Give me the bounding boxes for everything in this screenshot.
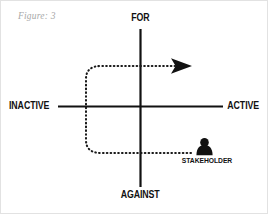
person-icon	[196, 138, 212, 155]
axis-label-top-text: FOR	[131, 12, 149, 23]
axis-label-right: ACTIVE	[227, 100, 259, 111]
axis-label-bottom: AGAINST	[1, 189, 268, 200]
figure-container: Figure: 3 FOR AGAINST INACTIVE ACTIVE ST…	[0, 0, 268, 214]
axis-label-bottom-text: AGAINST	[121, 189, 160, 200]
stakeholder-label: STAKEHOLDER	[173, 156, 241, 165]
axis-label-top: FOR	[1, 12, 268, 23]
axis-label-left: INACTIVE	[9, 100, 49, 111]
stakeholder-label-text: STAKEHOLDER	[182, 156, 232, 165]
trajectory-path	[86, 66, 191, 153]
